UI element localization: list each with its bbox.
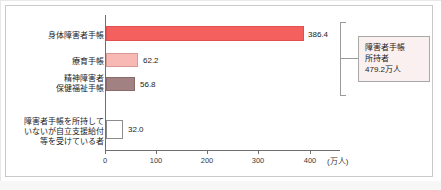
bar-value-3: 32.0 xyxy=(128,125,144,134)
x-axis-line xyxy=(105,150,340,151)
group-bracket-top-tick xyxy=(340,22,346,23)
bar-value-0: 386.4 xyxy=(308,30,328,39)
x-tick-label-400: 400 xyxy=(304,156,317,165)
bar-0 xyxy=(106,26,304,41)
x-tick-label-0: 0 xyxy=(103,156,107,165)
x-tick-label-100: 100 xyxy=(150,156,163,165)
group-bracket-bottom-tick xyxy=(340,95,346,96)
category-label-3-line3: 等を受けている者 xyxy=(40,137,104,147)
x-tick-100 xyxy=(156,150,157,154)
x-tick-label-300: 300 xyxy=(252,156,265,165)
bar-3 xyxy=(106,120,123,139)
category-label-3-line2: いないが自立支援給付 xyxy=(24,127,104,137)
category-label-1: 療育手帳 xyxy=(72,57,104,67)
chart-screenshot: 0 100 200 300 400 (万人) 身体障害者手帳 386.4 療育手… xyxy=(0,0,441,190)
x-tick-label-200: 200 xyxy=(201,156,214,165)
x-tick-300 xyxy=(258,150,259,154)
bar-value-2: 56.8 xyxy=(140,80,156,89)
plot-area: 0 100 200 300 400 (万人) 身体障害者手帳 386.4 療育手… xyxy=(0,0,441,190)
category-label-0: 身体障害者手帳 xyxy=(48,31,104,41)
group-total-callout: 障害者手帳 所持者 479.2万人 xyxy=(358,36,430,82)
x-tick-200 xyxy=(207,150,208,154)
category-label-2-line1: 精神障害者 xyxy=(64,74,104,84)
category-label-3-line1: 障害者手帳を所持して xyxy=(24,117,104,127)
bar-2 xyxy=(106,77,135,91)
x-tick-0 xyxy=(105,150,106,154)
bar-value-1: 62.2 xyxy=(143,56,159,65)
category-label-2-line2: 保健福祉手帳 xyxy=(56,84,104,94)
x-axis-unit-label: (万人) xyxy=(327,155,348,166)
x-tick-400 xyxy=(310,150,311,154)
bar-1 xyxy=(106,53,138,67)
group-bracket-connector xyxy=(340,58,358,59)
